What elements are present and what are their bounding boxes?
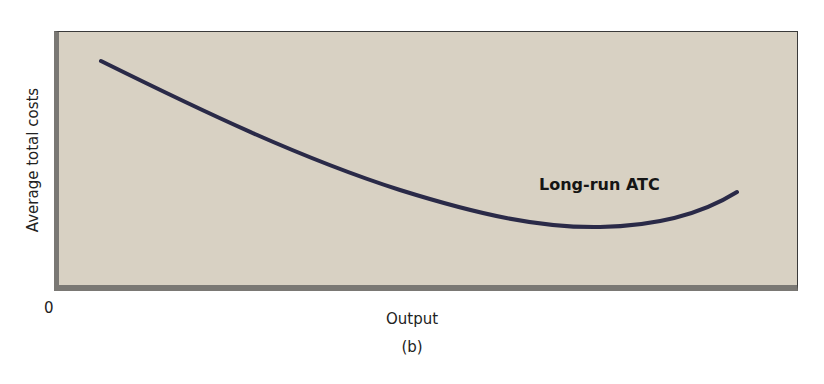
origin-label: 0 <box>44 299 54 317</box>
atc-line <box>101 61 737 227</box>
x-axis-label: Output <box>386 310 438 328</box>
figure-caption: (b) <box>401 338 422 356</box>
series-label-long-run-atc: Long-run ATC <box>539 175 660 194</box>
y-axis-label: Average total costs <box>24 88 42 232</box>
